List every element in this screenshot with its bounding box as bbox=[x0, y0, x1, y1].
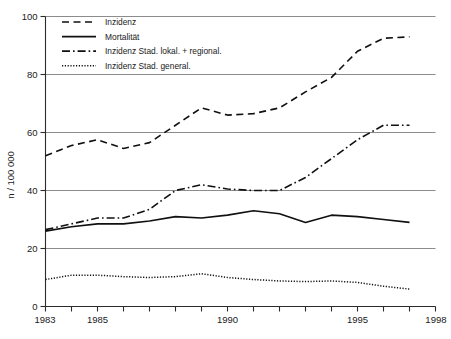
x-axis-tick-labels: 19831985199019951998 bbox=[35, 314, 447, 325]
x-tick-label: 1990 bbox=[217, 314, 238, 325]
y-tick-label: 20 bbox=[27, 243, 38, 254]
chart-legend: InzidenzMortalitätInzidenz Stad. lokal. … bbox=[62, 17, 222, 71]
x-axis: 19831985199019951998 bbox=[35, 307, 447, 325]
y-tick-label: 40 bbox=[27, 185, 38, 196]
series-line bbox=[46, 37, 410, 156]
legend-item-label: Inzidenz Stad. lokal. + regional. bbox=[105, 46, 222, 56]
legend-item-label: Mortalität bbox=[105, 32, 140, 42]
x-axis-ticks bbox=[46, 307, 436, 312]
x-tick-label: 1985 bbox=[87, 314, 108, 325]
y-tick-label: 0 bbox=[32, 301, 37, 312]
legend-item-label: Inzidenz Stad. general. bbox=[105, 61, 191, 71]
y-axis-ticks bbox=[41, 17, 46, 307]
series-line bbox=[46, 211, 410, 231]
y-tick-label: 80 bbox=[27, 69, 38, 80]
legend-item-label: Inzidenz bbox=[105, 17, 136, 27]
y-tick-label: 60 bbox=[27, 127, 38, 138]
y-axis-title: n / 100 000 bbox=[5, 151, 16, 199]
x-tick-label: 1995 bbox=[347, 314, 368, 325]
x-tick-label: 1998 bbox=[425, 314, 446, 325]
y-tick-label: 100 bbox=[22, 11, 38, 22]
series-line bbox=[46, 125, 410, 229]
series-line bbox=[46, 274, 410, 289]
y-axis-tick-labels: 020406080100 bbox=[22, 11, 38, 312]
x-tick-label: 1983 bbox=[35, 314, 56, 325]
chart-figure: 020406080100 19831985199019951998 n / 10… bbox=[0, 0, 451, 339]
y-axis: 020406080100 bbox=[22, 11, 46, 312]
line-chart-svg: 020406080100 19831985199019951998 n / 10… bbox=[0, 0, 451, 339]
